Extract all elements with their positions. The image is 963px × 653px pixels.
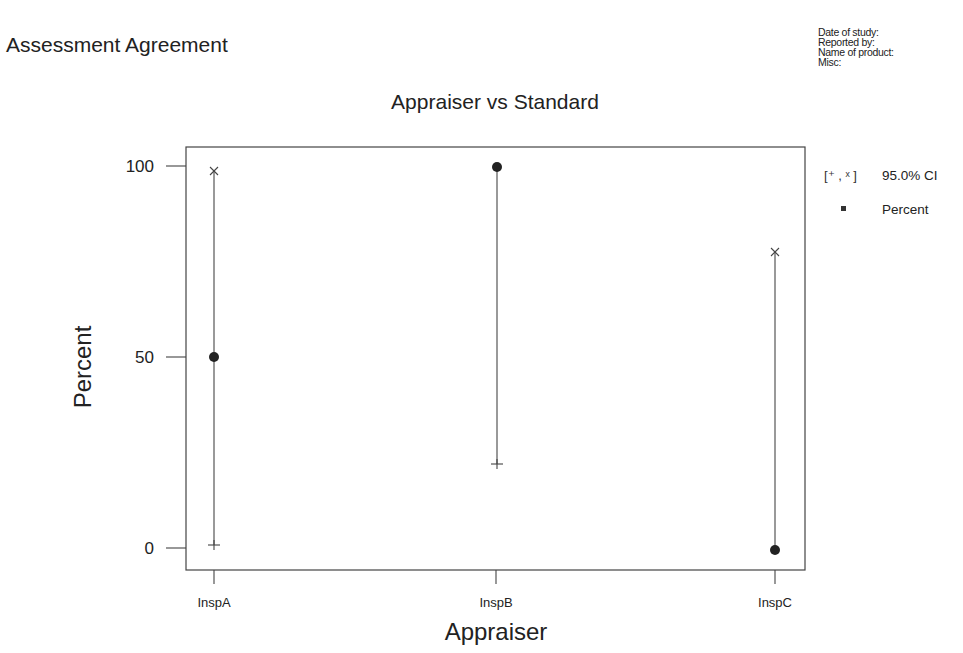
y-tick-0: 0 (145, 539, 154, 558)
percent-point (492, 162, 502, 172)
series-inspb (491, 162, 503, 469)
y-axis: 100 50 0 (126, 157, 186, 558)
legend-ci-label: 95.0% CI (882, 168, 938, 183)
x-tick-inspc: InspC (758, 595, 792, 610)
series-inspc (770, 248, 780, 555)
x-tick-inspb: InspB (479, 595, 512, 610)
chart-area: 100 50 0 InspA InspB InspC Appraiser Per… (0, 0, 963, 653)
x-tick-inspa: InspA (197, 595, 231, 610)
y-tick-100: 100 (126, 157, 154, 176)
legend-percent-label: Percent (882, 202, 929, 217)
plot-frame (186, 147, 805, 570)
ci-lower-plus-marker (491, 459, 503, 469)
x-axis: InspA InspB InspC (197, 570, 792, 610)
percent-point (209, 352, 219, 362)
y-axis-title: Percent (69, 325, 96, 408)
legend-ci-symbol: [⁺ , ˣ ] (824, 168, 857, 183)
ci-lower-plus-marker (208, 540, 220, 550)
x-axis-title: Appraiser (445, 618, 548, 645)
series-inspa (208, 167, 220, 550)
legend: [⁺ , ˣ ] 95.0% CI Percent (824, 168, 938, 217)
y-tick-50: 50 (135, 348, 154, 367)
legend-percent-icon (841, 206, 846, 211)
percent-point (770, 545, 780, 555)
